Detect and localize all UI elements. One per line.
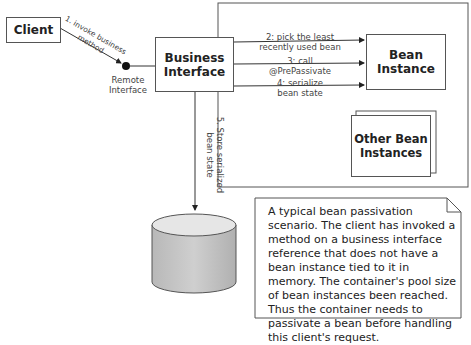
note-text: A typical bean passivation scenario. The…	[268, 205, 458, 345]
other-bean-instances-label: Other Bean Instances	[352, 132, 430, 160]
database-top	[152, 214, 236, 236]
step2-label: 2: pick the least recently used bean	[250, 32, 350, 52]
business-interface-box: Business Interface	[155, 37, 234, 92]
remote-interface-dot	[122, 62, 130, 70]
bean-instance-box: Bean Instance	[366, 34, 446, 90]
step5-label: 5. Store serialized bean state	[205, 100, 225, 210]
client-label: Client	[14, 23, 53, 37]
remote-interface-label: Remote Interface	[106, 75, 150, 95]
step3-label: 3: call @PrePassivate	[250, 56, 350, 76]
other-bean-instances-box: Other Bean Instances	[351, 115, 431, 177]
business-interface-label: Business Interface	[156, 51, 233, 79]
step4-label: 4: serialize bean state	[250, 78, 350, 98]
client-box: Client	[6, 17, 61, 43]
bean-instance-label: Bean Instance	[367, 48, 445, 76]
